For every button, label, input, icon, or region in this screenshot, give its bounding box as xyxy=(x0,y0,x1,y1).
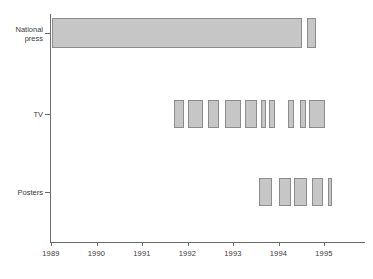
x-axis-tick-label: 1993 xyxy=(213,249,253,258)
x-axis-tick xyxy=(279,242,280,246)
x-axis-tick-label: 1989 xyxy=(31,249,71,258)
timeline-bar xyxy=(307,18,316,48)
x-axis-tick-label: 1992 xyxy=(168,249,208,258)
timeline-chart: 1989199019911992199319941995 Nationalpre… xyxy=(0,0,373,279)
timeline-bar xyxy=(328,178,332,206)
y-axis-line xyxy=(50,14,51,242)
category-label-line: Posters xyxy=(0,188,43,197)
timeline-bar xyxy=(269,100,275,128)
category-label-line: press xyxy=(0,34,43,43)
y-axis-tick xyxy=(45,114,50,115)
timeline-bar xyxy=(288,100,294,128)
x-axis-tick-label: 1991 xyxy=(122,249,162,258)
y-axis-category-label: Nationalpress xyxy=(0,25,43,43)
x-axis-tick-label: 1994 xyxy=(259,249,299,258)
x-axis-tick xyxy=(142,242,143,246)
timeline-bar xyxy=(309,100,324,128)
timeline-bar xyxy=(261,100,266,128)
x-axis-tick-label: 1990 xyxy=(77,249,117,258)
x-axis-tick xyxy=(51,242,52,246)
timeline-bar xyxy=(300,100,305,128)
y-axis-tick xyxy=(45,33,50,34)
timeline-bar xyxy=(208,100,219,128)
timeline-bar xyxy=(245,100,257,128)
timeline-bar xyxy=(279,178,290,206)
timeline-bar xyxy=(52,18,302,48)
category-label-line: TV xyxy=(0,110,43,119)
timeline-bar xyxy=(294,178,307,206)
x-axis-tick xyxy=(324,242,325,246)
x-axis-tick xyxy=(188,242,189,246)
x-axis-tick xyxy=(233,242,234,246)
x-axis-tick xyxy=(97,242,98,246)
y-axis-category-label: TV xyxy=(0,110,43,119)
y-axis-tick xyxy=(45,192,50,193)
timeline-bar xyxy=(188,100,203,128)
y-axis-category-label: Posters xyxy=(0,188,43,197)
timeline-bar xyxy=(259,178,271,206)
timeline-bar xyxy=(312,178,323,206)
category-label-line: National xyxy=(0,25,43,34)
x-axis-tick-label: 1995 xyxy=(304,249,344,258)
timeline-bar xyxy=(174,100,184,128)
timeline-bar xyxy=(225,100,241,128)
